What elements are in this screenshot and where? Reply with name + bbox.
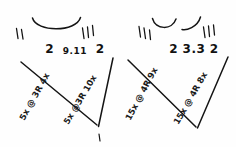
stray-mark [99, 134, 100, 141]
right-group-digits: 2 3.3 2 [152, 29, 219, 69]
right-digit-outer-left: 2 [169, 42, 178, 56]
right-digit-center: 3.3 [183, 42, 206, 56]
right-digit-outer-right: 2 [210, 42, 219, 56]
sketch-canvas: 2 9.11 2 2 3.3 2 5x @ 3R 4x 5x @3R 10x 1… [0, 0, 236, 147]
right-group-ticks-left [139, 27, 151, 40]
left-digit-outer-right: 2 [96, 42, 105, 56]
left-group-arc [33, 18, 81, 29]
left-group-ticks-left [17, 29, 24, 40]
right-group-arcs [153, 17, 201, 30]
left-digit-outer-left: 2 [45, 42, 54, 56]
left-digit-center: 9.11 [63, 46, 87, 56]
left-group-digits: 2 9.11 2 [28, 29, 105, 69]
